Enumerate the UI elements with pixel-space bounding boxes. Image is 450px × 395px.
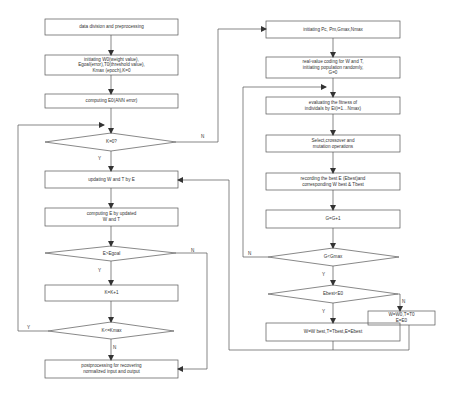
label-postprocess: postprocessing for recovering normalized… xyxy=(45,360,178,378)
edge-label-kmax-no: N xyxy=(113,345,116,350)
edge-label-egoal-no: N xyxy=(191,248,194,253)
label-update-wt: updating W and T by E xyxy=(45,171,178,188)
label-set-best: W=W best,T=Tbest,E=Ebest xyxy=(266,323,400,341)
label-e-gt-egoal: E>Egoal xyxy=(45,246,178,261)
label-ebest-lt-e0: Ebest<E0 xyxy=(266,285,400,303)
label-g-inc: G=G+1 xyxy=(266,210,400,228)
edge-label-gmax-yes: Y xyxy=(322,272,325,277)
label-k-zero: K=0? xyxy=(45,133,178,151)
label-record-best: recording the best E (Ebest)and correspo… xyxy=(266,173,400,190)
edge-label-ebest-yes: Y xyxy=(322,309,325,314)
label-g-lt-gmax: G<Gmax xyxy=(266,248,400,266)
label-evaluate: evaluating the fitness of individals by … xyxy=(266,97,400,114)
label-init-ga: initiating Pc, Pm,Gmax,Nmax xyxy=(266,21,400,38)
label-coding: real-value coding for W and T, initiatin… xyxy=(266,57,400,78)
edge-label-k-zero-no: N xyxy=(201,134,204,139)
edge-label-kmax-yes: Y xyxy=(27,325,30,330)
label-data-division: data division and preprocessing xyxy=(45,19,178,35)
edge-label-gmax-no: N xyxy=(248,251,251,256)
label-select: Select,crossover and mutation operations xyxy=(266,135,400,152)
label-k-le-kmax: K<=Kmax xyxy=(45,322,178,339)
label-compute-e0: computing E0(ANN error) xyxy=(45,94,178,108)
label-compute-e: computing E by updated W and T xyxy=(45,208,178,226)
label-init-ann: initiating W0(weight value), Egoal(error… xyxy=(45,55,178,75)
edge-label-egoal-yes: Y xyxy=(98,268,101,273)
edge-label-k-zero-yes: Y xyxy=(98,156,101,161)
edge-label-ebest-no: N xyxy=(402,299,405,304)
label-k-inc: K=K+1 xyxy=(45,285,178,301)
